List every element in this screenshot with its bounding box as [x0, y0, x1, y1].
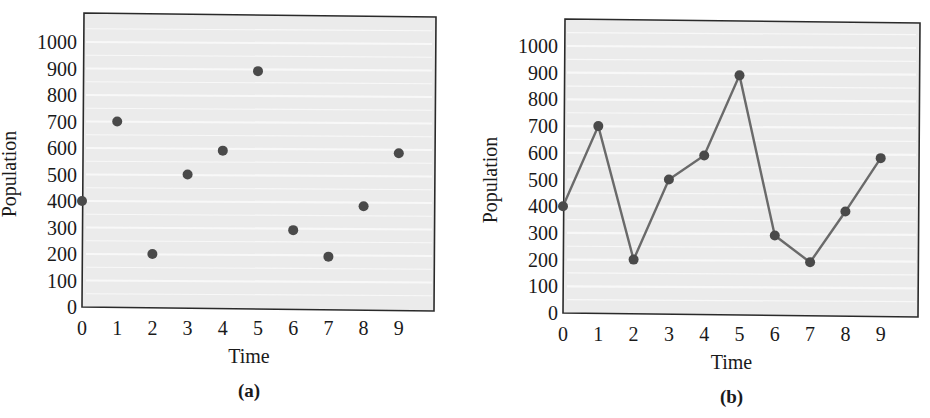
- x-axis-label: Time: [711, 351, 753, 373]
- y-tick-label: 900: [47, 58, 77, 80]
- y-tick-label: 200: [47, 243, 77, 265]
- x-tick-label: 1: [112, 317, 122, 339]
- y-tick-label: 1000: [518, 35, 558, 57]
- y-tick-label: 500: [528, 169, 558, 191]
- x-tick-label: 3: [664, 323, 674, 345]
- x-tick-label: 9: [876, 323, 886, 345]
- figure-caption: (a): [238, 380, 260, 402]
- x-tick-label: 5: [253, 317, 263, 339]
- x-tick-label: 4: [699, 323, 709, 345]
- y-axis-label: Population: [0, 131, 21, 218]
- data-point-marker: [876, 153, 886, 163]
- x-axis-ticks: 0123456789: [558, 323, 886, 345]
- y-tick-label: 400: [47, 190, 77, 212]
- y-tick-label: 900: [528, 62, 558, 84]
- y-tick-label: 1000: [37, 31, 77, 53]
- x-tick-label: 6: [770, 323, 780, 345]
- y-tick-label: 0: [67, 296, 77, 318]
- chart-panel-b: 0100200300400500600700800900100001234567…: [465, 0, 930, 418]
- data-point-marker: [147, 249, 157, 259]
- data-point-marker: [593, 121, 603, 131]
- x-axis-label: Time: [228, 345, 270, 367]
- x-tick-label: 2: [147, 317, 157, 339]
- x-tick-label: 4: [218, 317, 228, 339]
- x-tick-label: 8: [359, 317, 369, 339]
- data-point-marker: [770, 231, 780, 241]
- data-point-marker: [558, 201, 568, 211]
- chart-panel-a: 0100200300400500600700800900100001234567…: [0, 0, 465, 418]
- x-tick-label: 1: [593, 323, 603, 345]
- x-tick-label: 0: [558, 323, 568, 345]
- y-tick-label: 300: [47, 217, 77, 239]
- y-tick-label: 600: [528, 142, 558, 164]
- y-axis-ticks: 01002003004005006007008009001000: [37, 31, 77, 318]
- y-tick-label: 100: [47, 270, 77, 292]
- data-point-marker: [183, 170, 193, 180]
- scatter-plot-a: 0100200300400500600700800900100001234567…: [0, 0, 465, 418]
- y-tick-label: 500: [47, 164, 77, 186]
- x-tick-label: 3: [183, 317, 193, 339]
- y-tick-label: 200: [528, 249, 558, 271]
- data-point-marker: [288, 225, 298, 235]
- data-point-marker: [253, 66, 263, 76]
- data-point-marker: [112, 117, 122, 127]
- y-tick-label: 400: [528, 195, 558, 217]
- x-axis-ticks: 0123456789: [77, 317, 404, 339]
- y-tick-label: 0: [548, 302, 558, 324]
- y-tick-label: 800: [47, 84, 77, 106]
- figure-caption: (b): [720, 386, 743, 408]
- data-point-marker: [840, 207, 850, 217]
- x-tick-label: 7: [805, 323, 815, 345]
- data-point-marker: [664, 175, 674, 185]
- y-tick-label: 700: [528, 115, 558, 137]
- data-point-marker: [735, 70, 745, 80]
- x-tick-label: 2: [629, 323, 639, 345]
- y-tick-label: 100: [528, 275, 558, 297]
- x-tick-label: 0: [77, 317, 87, 339]
- data-point-marker: [699, 150, 709, 160]
- x-tick-label: 5: [735, 323, 745, 345]
- data-point-marker: [629, 255, 639, 265]
- x-tick-label: 8: [840, 323, 850, 345]
- y-tick-label: 700: [47, 111, 77, 133]
- data-point-marker: [359, 201, 369, 211]
- y-axis-label: Population: [479, 137, 502, 224]
- data-point-marker: [805, 257, 815, 267]
- data-point-marker: [77, 196, 87, 206]
- y-tick-label: 300: [528, 222, 558, 244]
- line-plot-b: 0100200300400500600700800900100001234567…: [465, 0, 930, 418]
- data-point-marker: [218, 146, 228, 156]
- x-tick-label: 7: [323, 317, 333, 339]
- data-point-marker: [323, 252, 333, 262]
- x-tick-label: 6: [288, 317, 298, 339]
- y-axis-ticks: 01002003004005006007008009001000: [518, 35, 558, 324]
- y-tick-label: 800: [528, 88, 558, 110]
- data-point-marker: [394, 148, 404, 158]
- x-tick-label: 9: [394, 317, 404, 339]
- y-tick-label: 600: [47, 137, 77, 159]
